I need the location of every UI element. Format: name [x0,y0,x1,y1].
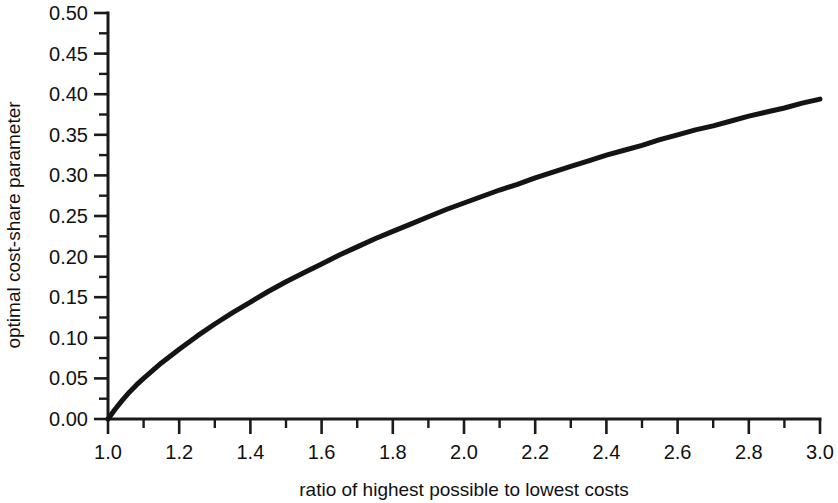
y-tick-label: 0.00 [49,408,88,430]
y-tick-label: 0.20 [49,246,88,268]
x-tick-label: 1.8 [379,441,407,463]
y-tick-label: 0.35 [49,124,88,146]
y-tick-label: 0.10 [49,327,88,349]
y-tick-label: 0.40 [49,83,88,105]
x-tick-label: 2.6 [664,441,692,463]
x-tick-label: 1.4 [236,441,264,463]
y-axis-tick-labels: 0.000.050.100.150.200.250.300.350.400.45… [49,2,88,430]
data-curve-optimal-cost-share [108,99,820,419]
y-tick-label: 0.05 [49,367,88,389]
y-axis-group: 0.000.050.100.150.200.250.300.350.400.45… [49,2,108,430]
x-tick-label: 2.4 [592,441,620,463]
x-tick-label: 2.8 [735,441,763,463]
x-axis-tick-labels: 1.01.21.41.61.82.02.22.42.62.83.0 [94,441,834,463]
x-tick-label: 1.2 [165,441,193,463]
y-tick-label: 0.25 [49,205,88,227]
line-chart: 0.000.050.100.150.200.250.300.350.400.45… [0,0,838,503]
x-tick-label: 1.6 [308,441,336,463]
plot-series-group [108,99,820,419]
x-axis-label: ratio of highest possible to lowest cost… [299,479,629,500]
chart-page: 0.000.050.100.150.200.250.300.350.400.45… [0,0,838,503]
x-tick-label: 2.2 [521,441,549,463]
y-tick-label: 0.15 [49,286,88,308]
y-tick-label: 0.50 [49,2,88,24]
x-tick-label: 3.0 [806,441,834,463]
x-axis-group: 1.01.21.41.61.82.02.22.42.62.83.0 [94,419,834,463]
y-axis-label: optimal cost-share parameter [3,101,24,349]
x-tick-label: 1.0 [94,441,122,463]
y-tick-label: 0.45 [49,43,88,65]
y-tick-label: 0.30 [49,164,88,186]
x-tick-label: 2.0 [450,441,478,463]
